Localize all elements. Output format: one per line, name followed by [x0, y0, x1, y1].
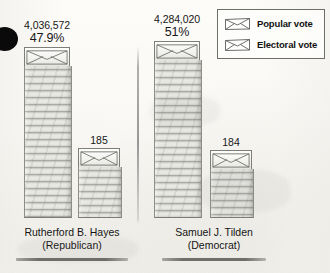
group-divider-line: [137, 46, 139, 224]
bar-labels-hayes-electoral: 185: [90, 135, 108, 146]
candidate-party-tilden: (Democrat): [148, 239, 280, 252]
bar-hayes-electoral[interactable]: 185: [78, 135, 120, 218]
legend-label-electoral-vote: Electoral vote: [257, 39, 317, 50]
envelope-icon: [154, 41, 200, 60]
bars-area-hayes: 4,036,572 47.9% 18: [8, 22, 136, 218]
popular-vote-percent-hayes: 47.9%: [24, 32, 70, 46]
bar-hayes-popular[interactable]: 4,036,572 47.9%: [24, 20, 70, 218]
popular-vote-value-tilden: 4,284,020: [154, 14, 200, 25]
scan-smudge-artifact: [200, 170, 290, 212]
envelope-icon: [224, 38, 251, 52]
envelope-stack-hayes-popular: [24, 47, 70, 218]
legend-item-electoral-vote: Electoral vote: [224, 36, 319, 53]
legend-label-popular-vote: Popular vote: [257, 18, 313, 29]
scan-smudge-artifact: [18, 236, 138, 262]
envelope-stack-body: [154, 60, 202, 218]
electoral-vote-value-tilden: 184: [222, 137, 240, 148]
legend-item-popular-vote: Popular vote: [224, 15, 319, 32]
chart-legend: Popular vote Electoral vote: [217, 9, 325, 59]
envelope-icon: [24, 47, 70, 66]
popular-vote-percent-tilden: 51%: [154, 26, 200, 40]
bar-labels-hayes-popular: 4,036,572 47.9%: [24, 20, 70, 45]
envelope-icon: [224, 17, 251, 31]
election-pictograph-chart: 4,036,572 47.9% 18: [0, 0, 330, 273]
caption-underline: [162, 258, 266, 261]
candidate-name-tilden: Samuel J. Tilden: [148, 226, 280, 239]
envelope-stack-body: [24, 66, 72, 218]
candidate-group-hayes: 4,036,572 47.9% 18: [8, 0, 136, 273]
envelope-stack-body: [78, 167, 122, 218]
bar-labels-tilden-popular: 4,284,020 51%: [154, 14, 200, 39]
caption-tilden: Samuel J. Tilden (Democrat): [148, 226, 280, 261]
envelope-stack-tilden-popular: [154, 41, 200, 218]
envelope-icon: [78, 148, 120, 167]
envelope-stack-hayes-electoral: [78, 148, 120, 218]
scan-smudge-artifact: [150, 96, 220, 126]
bar-labels-tilden-electoral: 184: [222, 137, 240, 148]
electoral-vote-value-hayes: 185: [90, 135, 108, 146]
popular-vote-value-hayes: 4,036,572: [24, 20, 70, 31]
envelope-icon: [210, 150, 252, 169]
